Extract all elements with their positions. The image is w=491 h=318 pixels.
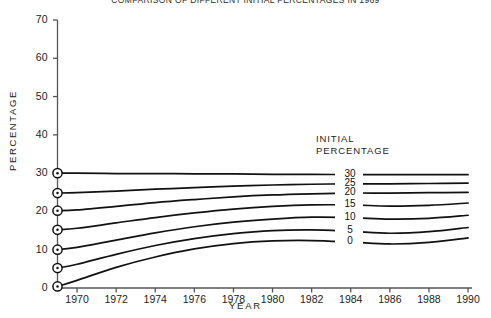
series-label: 5 <box>337 224 363 235</box>
series-line <box>58 173 469 175</box>
series-start-marker-icon <box>53 263 62 272</box>
series-label: 15 <box>337 198 363 209</box>
y-tick-label: 0 <box>22 281 48 293</box>
y-tick-label: 30 <box>22 166 48 178</box>
y-tick-label: 40 <box>22 128 48 140</box>
y-tick-label: 70 <box>22 13 48 25</box>
series-label: 10 <box>337 211 363 222</box>
series-line <box>58 192 469 210</box>
legend-title-line-2: PERCENTAGE <box>316 145 390 157</box>
series-line <box>58 183 469 193</box>
series-group <box>58 173 469 286</box>
series-line <box>58 203 469 230</box>
series-label: 20 <box>337 186 363 197</box>
legend-title: INITIAL PERCENTAGE <box>316 133 390 157</box>
series-line <box>58 238 469 287</box>
y-tick-label: 60 <box>22 51 48 63</box>
x-axis-title: YEAR <box>0 300 491 311</box>
y-axis-title: PERCENTAGE <box>7 86 18 176</box>
series-start-marker-icon <box>53 206 62 215</box>
series-start-marker-icon <box>53 282 62 291</box>
series-label: 0 <box>337 235 363 246</box>
series-start-marker-icon <box>53 169 62 178</box>
series-line <box>58 228 469 269</box>
plot-area <box>0 0 491 318</box>
series-start-marker-icon <box>53 188 62 197</box>
chart-container: COMPARISON OF DIFFERENT INITIAL PERCENTA… <box>0 0 491 318</box>
y-tick-label: 20 <box>22 204 48 216</box>
series-start-marker-icon <box>53 225 62 234</box>
legend-title-line-1: INITIAL <box>316 133 390 145</box>
y-tick-label: 10 <box>22 243 48 255</box>
axes-group <box>53 20 472 293</box>
y-tick-label: 50 <box>22 90 48 102</box>
series-start-marker-icon <box>53 245 62 254</box>
